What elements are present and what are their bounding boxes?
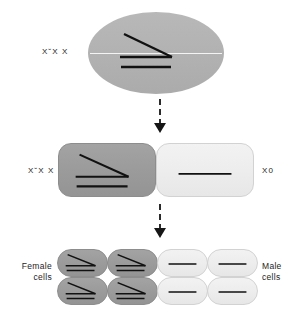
- zygote-chromosomes: [88, 12, 224, 94]
- female-cell-chromosomes: [108, 250, 157, 276]
- female-cell-chromosomes: [58, 250, 107, 276]
- female-cell: [107, 249, 158, 277]
- arrow-head: [154, 123, 166, 133]
- arrow-division-to-daughters: [153, 204, 167, 230]
- female-cell: [57, 249, 108, 277]
- male-cell-chromosomes: [208, 278, 257, 304]
- female-cell-chromosomes: [58, 278, 107, 304]
- male-cell: [207, 249, 258, 277]
- arrow-head: [154, 228, 166, 238]
- zygote-cell: [88, 12, 224, 94]
- diagram-canvas: X˘X X X˘X X: [0, 0, 306, 317]
- female-cells-label: Female cells: [8, 261, 52, 283]
- arrow-shaft: [159, 99, 161, 125]
- division-left-chromosomes: [59, 144, 155, 196]
- male-cell-chromosomes: [158, 278, 207, 304]
- division-right-genotype-label: X0: [262, 165, 302, 176]
- division-right-chromosomes: [157, 144, 253, 196]
- female-cell: [57, 277, 108, 305]
- male-cell: [157, 277, 208, 305]
- arrow-zygote-to-division: [153, 99, 167, 125]
- division-right-cell: [156, 143, 254, 197]
- male-cell: [157, 249, 208, 277]
- arrow-shaft: [159, 204, 161, 230]
- male-cell-chromosomes: [208, 250, 257, 276]
- male-cell-chromosomes: [158, 250, 207, 276]
- division-left-cell: [58, 143, 156, 197]
- male-cell: [207, 277, 258, 305]
- male-cells-label: Male cells: [262, 261, 306, 283]
- female-cell-chromosomes: [108, 278, 157, 304]
- female-cell: [107, 277, 158, 305]
